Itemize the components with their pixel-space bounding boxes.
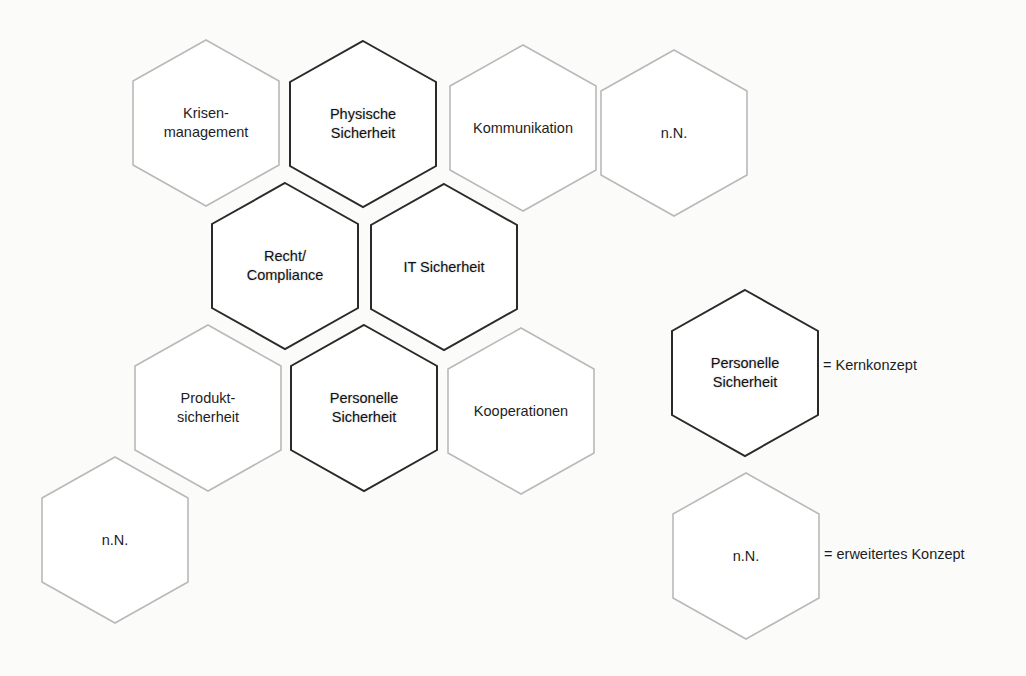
legend-core-description: = Kernkonzept — [823, 357, 917, 373]
legend-extended-description: = erweitertes Konzept — [824, 546, 965, 562]
produktsicherheit-hexagon — [135, 325, 281, 491]
hexagon-concept-diagram: Krisen- managementPhysische SicherheitKo… — [0, 0, 1026, 676]
legend-core-hexagon — [672, 290, 818, 456]
it-sicherheit-hexagon — [371, 184, 517, 350]
nn-bottom-left-hexagon — [42, 457, 188, 623]
legend-extended-hexagon — [673, 473, 819, 639]
nn-top-hexagon — [601, 50, 747, 216]
physische-sicherheit-hexagon — [290, 41, 436, 207]
kommunikation-hexagon — [450, 45, 596, 211]
recht-compliance-hexagon — [212, 183, 358, 349]
krisenmanagement-hexagon — [133, 40, 279, 206]
hexagon-canvas — [0, 0, 1026, 676]
personelle-sicherheit-hexagon — [291, 325, 437, 491]
kooperationen-hexagon — [448, 328, 594, 494]
